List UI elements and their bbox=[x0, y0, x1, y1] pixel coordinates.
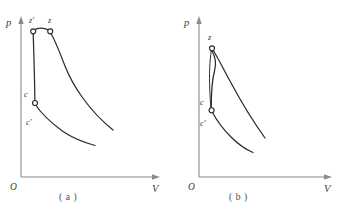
figure-root: p V O z′ z c c′ ( a ) p V O bbox=[0, 0, 345, 211]
panel-a-origin-label: O bbox=[10, 182, 17, 192]
panel-a-caption: ( a ) bbox=[59, 192, 77, 203]
pv-diagram-figure: p V O z′ z c c′ ( a ) p V O bbox=[0, 0, 345, 211]
panel-a-point-z-label: z bbox=[47, 15, 52, 25]
panel-b-point-z-marker bbox=[210, 46, 215, 51]
panel-a-point-c-prime-label: c′ bbox=[26, 117, 32, 127]
panel-a-curve-left-vertical bbox=[33, 34, 35, 102]
panel-b-x-axis-arrow-icon bbox=[324, 174, 332, 179]
panel-b-curve-inner-cusp bbox=[211, 51, 215, 109]
panel-a: p V O z′ z c c′ ( a ) bbox=[5, 15, 160, 203]
panel-a-curve-upper-isotherm bbox=[51, 33, 113, 130]
panel-a-curve-lower-isotherm bbox=[35, 105, 95, 146]
panel-b-point-z-label: z bbox=[207, 32, 212, 42]
panel-a-point-c-label: c bbox=[24, 89, 28, 99]
panel-a-point-z-prime-marker bbox=[31, 29, 36, 34]
panel-b-caption: ( b ) bbox=[229, 192, 248, 203]
panel-a-x-axis-label: V bbox=[152, 183, 160, 194]
panel-b-point-c-prime-label: c′ bbox=[200, 118, 206, 128]
panel-a-point-z-marker bbox=[48, 29, 53, 34]
panel-a-y-axis-arrow-icon bbox=[18, 16, 23, 24]
panel-b-point-c-label: c bbox=[200, 97, 204, 107]
panel-b: p V O z c c′ ( b ) bbox=[183, 16, 332, 203]
panel-a-x-axis-arrow-icon bbox=[152, 174, 160, 179]
panel-a-point-c-marker bbox=[33, 101, 38, 106]
panel-a-point-z-prime-label: z′ bbox=[28, 15, 34, 25]
panel-b-y-axis-label: p bbox=[183, 17, 189, 28]
panel-b-curve-lower-isotherm bbox=[212, 112, 253, 153]
panel-b-x-axis-label: V bbox=[324, 183, 332, 194]
panel-b-y-axis-arrow-icon bbox=[196, 16, 201, 24]
panel-b-point-c-marker bbox=[209, 108, 214, 113]
panel-a-y-axis-label: p bbox=[5, 17, 11, 28]
panel-b-origin-label: O bbox=[188, 182, 195, 192]
